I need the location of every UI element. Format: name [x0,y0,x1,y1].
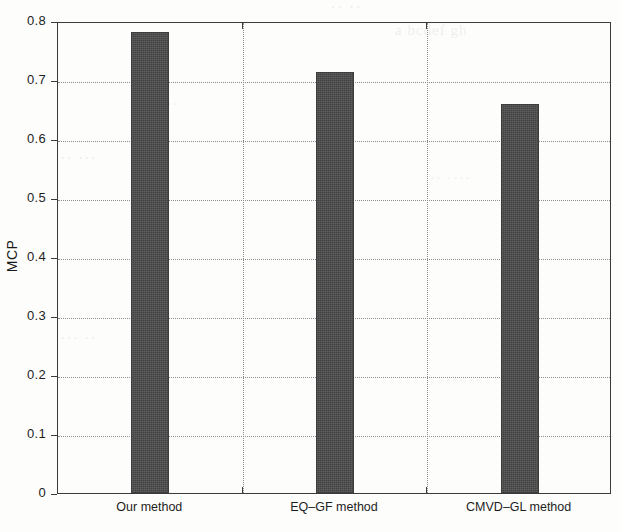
y-axis-tick-label: 0.2 [27,367,46,382]
y-axis-tick-label: 0.8 [27,13,46,28]
bar [316,72,354,493]
y-axis-tick-label: 0.3 [27,308,46,323]
y-axis-label: MCP [4,231,20,281]
grid-line-vertical [427,23,428,493]
grid-line-vertical [243,23,244,493]
ghost-text: ·· ·· [330,0,362,18]
x-axis-category-label: Our method [116,500,182,514]
y-axis-tick-mark [51,494,57,495]
y-axis-tick-label: 0.7 [27,72,46,87]
y-axis-tick-label: 0.6 [27,131,46,146]
x-axis-category-label: CMVD–GL method [466,500,571,514]
y-axis-tick-label: 0.4 [27,249,46,264]
bar-chart-figure: ·· ·· a bcdef gh ·· ··· ·· ···· ··· ·· ·… [0,0,620,532]
y-axis-tick-label: 0 [38,485,46,500]
y-axis-tick-label: 0.5 [27,190,46,205]
bar [131,32,169,493]
y-axis-tick-label: 0.1 [27,426,46,441]
x-axis-category-label: EQ–GF method [290,500,378,514]
plot-area [57,22,611,494]
bar [501,104,539,493]
